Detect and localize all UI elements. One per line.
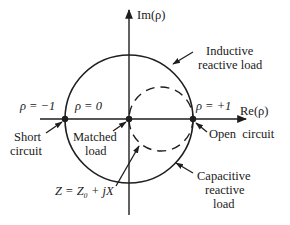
impedance-circle-label: Z = Z₀ + jX: [55, 184, 115, 198]
matched-load-label-line1: Matched: [73, 130, 117, 144]
short-circuit-point: [62, 116, 68, 122]
open-circuit-label: Open circuit: [209, 127, 275, 141]
real-axis-label: Re(ρ): [240, 104, 268, 118]
capacitive-load-label-line1: Capacitive: [197, 169, 251, 183]
open-circuit-point: [190, 116, 196, 122]
imag-axis-label: Im(ρ): [137, 8, 165, 22]
inductive-load-arrow: [173, 52, 193, 64]
impedance-circle-arrow: [116, 146, 139, 186]
inductive-load-label-line1: Inductive: [206, 44, 254, 58]
short-circuit-label-line2: circuit: [10, 144, 42, 158]
capacitive-load-label-line3: load: [213, 197, 235, 211]
inductive-load-label-line2: reactive load: [198, 58, 263, 72]
rho-minus-one-label: ρ = −1: [19, 99, 55, 113]
rho-plus-one-label: ρ = +1: [195, 99, 231, 113]
capacitive-load-arrow: [176, 163, 193, 173]
smith-rho-plane-diagram: Im(ρ) Re(ρ) ρ = −1 ρ = 0 ρ = +1 Short ci…: [0, 0, 290, 225]
matched-load-arrow: [113, 122, 126, 131]
open-circuit-arrow: [196, 123, 207, 132]
capacitive-load-label-line2: reactive: [205, 183, 245, 197]
short-circuit-label-line1: Short: [14, 130, 42, 144]
matched-load-label-line2: load: [85, 144, 107, 158]
short-circuit-arrow: [46, 122, 62, 133]
rho-zero-label: ρ = 0: [74, 99, 103, 113]
matched-load-point: [126, 116, 132, 122]
